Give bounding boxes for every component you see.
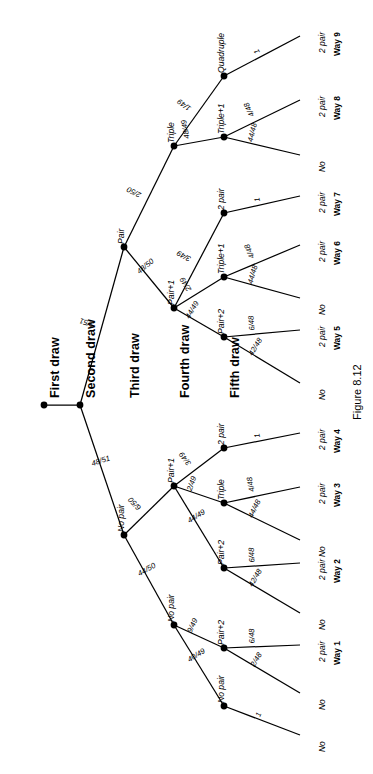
node-label-n12: Pair+2 bbox=[217, 309, 226, 334]
terminal-edge-9 bbox=[224, 487, 300, 503]
node-label-n15: Pair+2 bbox=[217, 540, 226, 565]
column-header-fifth-draw: Fifth draw bbox=[229, 337, 242, 398]
terminal-way-8: Way 4 bbox=[333, 429, 341, 453]
terminal-outcome-13: 2 pair bbox=[318, 641, 326, 662]
tree-node-n3[interactable] bbox=[121, 532, 128, 539]
tree-node-n8[interactable] bbox=[221, 73, 228, 80]
node-label-n5: Pair+1 bbox=[167, 280, 176, 305]
node-label-n8: Quadruple bbox=[217, 33, 226, 73]
figure-canvas: First drawSecond drawThird drawFourth dr… bbox=[0, 0, 373, 774]
terminal-probability-11: 6/48 bbox=[248, 547, 257, 562]
terminal-probability-6: 6/48 bbox=[247, 315, 256, 330]
terminal-outcome-0: 2 pair bbox=[318, 32, 326, 53]
terminal-way-0: Way 9 bbox=[333, 32, 341, 56]
terminal-outcome-11: 2 pair bbox=[318, 559, 326, 580]
tree-node-n10[interactable] bbox=[221, 210, 228, 217]
terminal-outcome-3: 2 pair bbox=[318, 192, 326, 213]
figure-caption: Figure 8.12 bbox=[352, 364, 363, 420]
terminal-probability-8: 1 bbox=[253, 432, 261, 438]
terminal-outcome-14: No bbox=[318, 699, 326, 710]
tree-node-n16[interactable] bbox=[221, 645, 228, 652]
node-label-n10: 2 pair bbox=[217, 189, 226, 211]
terminal-edge-2 bbox=[224, 137, 300, 155]
column-header-fourth-draw: Fourth draw bbox=[179, 325, 192, 398]
node-label-n11: Triple+1 bbox=[217, 243, 226, 274]
terminal-outcome-15: No bbox=[318, 741, 326, 752]
terminal-outcome-6: 2 pair bbox=[318, 326, 326, 347]
terminal-outcome-12: No bbox=[318, 619, 326, 630]
terminal-way-4: Way 6 bbox=[333, 241, 341, 265]
node-label-n17: No pair bbox=[217, 675, 226, 703]
terminal-edge-15 bbox=[224, 706, 300, 735]
terminal-probability-13: 6/48 bbox=[248, 628, 256, 643]
node-label-n16: Pair+2 bbox=[217, 620, 226, 645]
terminal-outcome-1: 2 pair bbox=[318, 96, 326, 117]
terminal-outcome-8: 2 pair bbox=[318, 429, 326, 450]
terminal-edge-10 bbox=[224, 503, 300, 540]
terminal-outcome-4: 2 pair bbox=[318, 241, 326, 262]
terminal-outcome-10: No bbox=[318, 546, 326, 557]
terminal-edge-8 bbox=[224, 433, 300, 448]
column-header-first-draw: First draw bbox=[49, 337, 62, 398]
tree-node-n12[interactable] bbox=[221, 334, 228, 341]
terminal-outcome-2: No bbox=[318, 161, 326, 172]
terminal-edge-13 bbox=[224, 645, 300, 648]
tree-node-n13[interactable] bbox=[221, 445, 228, 452]
terminal-way-3: Way 7 bbox=[333, 192, 341, 216]
terminal-edge-0 bbox=[224, 36, 300, 76]
node-label-n14: Triple bbox=[217, 479, 226, 500]
node-label-n2: Pair bbox=[117, 229, 126, 244]
tree-node-n11[interactable] bbox=[221, 274, 228, 281]
terminal-way-1: Way 8 bbox=[333, 96, 341, 120]
terminal-outcome-7: No bbox=[318, 389, 326, 400]
terminal-way-11: Way 2 bbox=[333, 559, 341, 583]
terminal-edge-11 bbox=[224, 563, 300, 568]
terminal-way-6: Way 5 bbox=[333, 326, 341, 350]
tree-node-n1[interactable] bbox=[77, 402, 84, 409]
terminal-way-13: Way 1 bbox=[333, 641, 341, 665]
terminal-outcome-5: No bbox=[318, 304, 326, 315]
terminal-way-9: Way 3 bbox=[333, 483, 341, 507]
terminal-edge-3 bbox=[224, 196, 300, 213]
terminal-outcome-9: 2 pair bbox=[318, 483, 326, 504]
tree-node-n4[interactable] bbox=[171, 143, 178, 150]
tree-node-n9[interactable] bbox=[221, 134, 228, 141]
tree-node-n15[interactable] bbox=[221, 565, 228, 572]
tree-node-n17[interactable] bbox=[221, 703, 228, 710]
tree-node-n14[interactable] bbox=[221, 500, 228, 507]
tree-node-n6[interactable] bbox=[171, 483, 178, 490]
tree-node-n0[interactable] bbox=[41, 402, 48, 409]
column-header-third-draw: Third draw bbox=[129, 333, 142, 398]
tree-node-n5[interactable] bbox=[171, 305, 178, 312]
node-label-n4: Triple bbox=[167, 122, 176, 143]
terminal-edge-6 bbox=[224, 330, 300, 337]
tree-node-n7[interactable] bbox=[171, 622, 178, 629]
node-label-n6: Pair+1 bbox=[167, 458, 176, 483]
node-label-n3: No pair bbox=[117, 504, 126, 532]
node-label-n9: Triple+1 bbox=[217, 103, 226, 134]
terminal-edge-5 bbox=[224, 277, 300, 298]
column-header-second-draw: Second draw bbox=[85, 319, 98, 398]
terminal-edge-4 bbox=[224, 245, 300, 277]
tree-node-n2[interactable] bbox=[121, 244, 128, 251]
terminal-edge-1 bbox=[224, 100, 300, 137]
node-label-n7: No pair bbox=[167, 594, 176, 622]
node-label-n13: 2 pair bbox=[217, 424, 226, 446]
edge-n3-n6 bbox=[124, 486, 174, 535]
